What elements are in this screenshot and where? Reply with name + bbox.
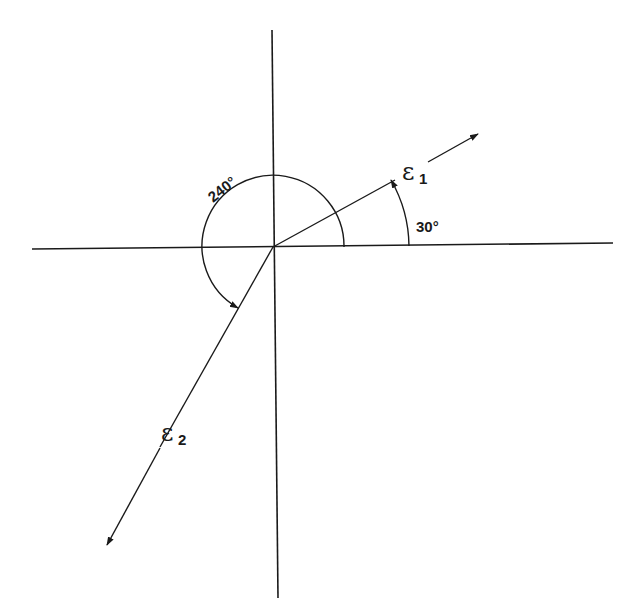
horizontal-axis — [32, 243, 613, 249]
epsilon-1-vector — [273, 134, 478, 247]
strain-diagram: 240° 30° ε 1 ε 2 — [0, 0, 639, 616]
svg-text:ε: ε — [402, 158, 414, 186]
vertical-axis — [272, 30, 278, 598]
epsilon-2-vector — [107, 247, 273, 545]
svg-text:1: 1 — [419, 170, 427, 187]
angle-label-240: 240° — [204, 173, 239, 206]
epsilon-1-label: ε 1 — [402, 158, 427, 187]
svg-text:ε: ε — [161, 419, 173, 447]
angle-label-30: 30° — [416, 218, 439, 235]
svg-text:2: 2 — [178, 431, 186, 448]
angle-arc-30 — [391, 180, 409, 246]
